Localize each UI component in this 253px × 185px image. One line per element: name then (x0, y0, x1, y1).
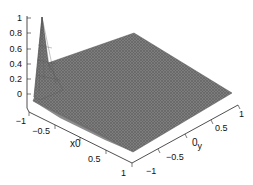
z-tick-0.4: 0.4 (9, 59, 22, 69)
x-tick-neg0.5: −0.5 (32, 126, 50, 136)
y-tick-neg1: −1 (146, 166, 156, 176)
z-tick-0.8: 0.8 (9, 28, 22, 38)
y-tick-1: 1 (239, 109, 244, 119)
z-tick-0: 0 (17, 89, 22, 99)
z-axis: 1 0.8 0.6 0.4 0.2 0 (9, 13, 31, 108)
z-tick-0.2: 0.2 (9, 74, 22, 84)
z-tick-1: 1 (17, 13, 22, 23)
y-axis-title: 0y (192, 137, 203, 151)
y-tick-0.5: 0.5 (215, 123, 228, 133)
x-tick-0.5: 0.5 (88, 154, 101, 164)
surface (33, 17, 232, 152)
x-axis-title: x0 (70, 138, 81, 149)
surface-plot: 1 0.8 0.6 0.4 0.2 0 (0, 0, 253, 185)
x-tick-1: 1 (121, 168, 126, 178)
y-tick-neg0.5: −0.5 (166, 152, 184, 162)
z-tick-0.6: 0.6 (9, 44, 22, 54)
x-tick-neg1: −1 (16, 116, 26, 126)
